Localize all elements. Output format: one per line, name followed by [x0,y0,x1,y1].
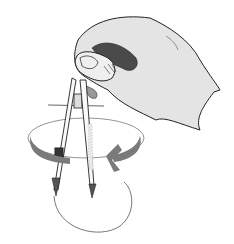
compass-illustration [0,0,234,244]
